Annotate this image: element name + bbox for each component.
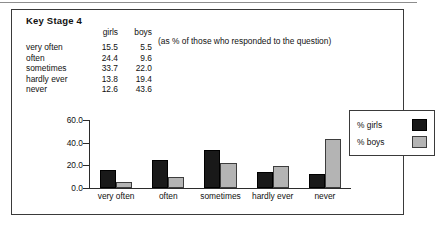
table-header-boys: boys — [118, 27, 152, 37]
table-row: hardly ever 13.8 19.4 — [26, 74, 152, 84]
row-girls-value: 33.7 — [84, 63, 118, 73]
bar-girls — [152, 160, 168, 188]
bar-boys — [325, 139, 341, 188]
row-category: hardly ever — [26, 74, 84, 84]
bar-boys — [220, 163, 236, 188]
bar-boys — [168, 177, 184, 188]
row-boys-value: 22.0 — [118, 63, 152, 73]
row-boys-value: 19.4 — [118, 74, 152, 84]
table-header-category — [26, 27, 84, 37]
x-axis-tick-label: often — [142, 191, 194, 201]
legend-item-boys: % boys — [357, 133, 427, 150]
page-top-rule — [0, 2, 417, 3]
row-girls-value: 12.6 — [84, 84, 118, 94]
y-axis-tick — [83, 188, 89, 189]
figure-title: Key Stage 4 — [26, 15, 82, 26]
plot-area — [90, 120, 351, 188]
table-row: very often 15.5 5.5 — [26, 42, 152, 52]
x-axis-tick-label: sometimes — [194, 191, 246, 201]
chart-legend: % girls % boys — [349, 110, 435, 156]
legend-label-boys: % boys — [357, 137, 384, 147]
table-row: never 12.6 43.6 — [26, 84, 152, 94]
y-axis-tick-label: 0.0 — [71, 183, 83, 193]
bar-girls — [257, 172, 273, 188]
bar-group — [100, 120, 132, 188]
figure-note: (as % of those who responded to the ques… — [158, 36, 331, 46]
bar-group — [152, 120, 184, 188]
row-category: never — [26, 84, 84, 94]
y-axis-tick-label: 20.0 — [67, 160, 83, 170]
bar-boys — [116, 182, 132, 188]
x-axis-tick-label: very often — [90, 191, 142, 201]
table-header-row: girls boys — [26, 27, 152, 37]
bar-girls — [204, 150, 220, 188]
x-axis-tick-label: hardly ever — [247, 191, 299, 201]
y-axis-tick — [83, 165, 89, 166]
data-table: girls boys very often 15.5 5.5 often 24.… — [26, 27, 152, 94]
y-axis-tick — [83, 120, 89, 121]
row-boys-value: 43.6 — [118, 84, 152, 94]
x-axis-tick-label: never — [299, 191, 351, 201]
bar-girls — [100, 170, 116, 188]
row-category: sometimes — [26, 63, 84, 73]
figure-panel: Key Stage 4 girls boys very often 15.5 5… — [11, 9, 404, 215]
row-girls-value: 15.5 — [84, 42, 118, 52]
x-axis-line — [89, 188, 351, 189]
legend-swatch-girls-icon — [412, 119, 427, 131]
table-row: often 24.4 9.6 — [26, 53, 152, 63]
table-row: sometimes 33.7 22.0 — [26, 63, 152, 73]
row-category: often — [26, 53, 84, 63]
bar-group — [309, 120, 341, 188]
y-axis-tick-label: 40.0 — [67, 138, 83, 148]
row-boys-value: 5.5 — [118, 42, 152, 52]
bar-chart: 0.020.040.060.0 very oftenoftensometimes… — [26, 110, 391, 210]
row-girls-value: 24.4 — [84, 53, 118, 63]
row-boys-value: 9.6 — [118, 53, 152, 63]
row-girls-value: 13.8 — [84, 74, 118, 84]
bar-boys — [273, 166, 289, 188]
legend-item-girls: % girls — [357, 116, 427, 133]
legend-swatch-boys-icon — [412, 136, 427, 148]
bar-group — [204, 120, 236, 188]
y-axis-tick — [83, 143, 89, 144]
y-axis-tick-label: 60.0 — [67, 115, 83, 125]
row-category: very often — [26, 42, 84, 52]
bar-girls — [309, 174, 325, 188]
bar-group — [257, 120, 289, 188]
table-header-girls: girls — [84, 27, 118, 37]
legend-label-girls: % girls — [357, 120, 382, 130]
